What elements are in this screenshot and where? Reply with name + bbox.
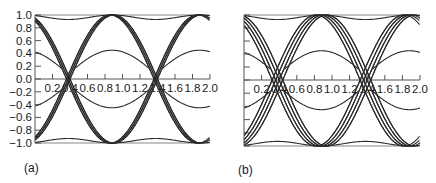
panel-label-b: (b) bbox=[238, 163, 253, 177]
y-tick-label: −1.0 bbox=[9, 137, 32, 149]
y-tick-label: 0.4 bbox=[16, 47, 33, 59]
panel-b: 0.20.40.60.81.01.21.41.61.82.0 bbox=[218, 0, 436, 183]
x-tick-label: 1.8 bbox=[394, 83, 410, 95]
y-tick-label: −0.2 bbox=[9, 86, 32, 98]
eye-trace bbox=[276, 15, 364, 80]
eye-trace bbox=[244, 25, 272, 80]
x-tick-label: 0.6 bbox=[80, 82, 96, 94]
panel-a: 0.20.40.60.81.01.21.41.61.82.01.00.80.60… bbox=[0, 0, 218, 183]
x-tick-label: 1.6 bbox=[377, 83, 393, 95]
y-tick-label: 0.6 bbox=[16, 35, 32, 47]
eye-trace bbox=[35, 16, 68, 20]
eye-trace bbox=[75, 50, 149, 68]
eye-diagram-a: 0.20.40.60.81.01.21.41.61.82.01.00.80.60… bbox=[0, 0, 218, 183]
x-tick-label: 1.6 bbox=[167, 82, 183, 94]
eye-trace bbox=[163, 50, 210, 68]
y-tick-label: 0.8 bbox=[16, 22, 32, 34]
x-tick-label: 2.0 bbox=[412, 83, 428, 95]
eye-trace bbox=[245, 16, 283, 80]
y-tick-label: 0.0 bbox=[16, 73, 32, 85]
eye-trace bbox=[360, 15, 419, 80]
eye-trace bbox=[35, 20, 68, 79]
x-tick-label: 1.0 bbox=[324, 83, 340, 95]
eye-trace bbox=[272, 15, 360, 80]
x-tick-label: 0.8 bbox=[306, 83, 322, 95]
x-tick-label: 0.6 bbox=[289, 83, 305, 95]
y-tick-label: 0.2 bbox=[16, 60, 32, 72]
y-tick-label: −0.4 bbox=[9, 99, 32, 111]
y-tick-label: 1.0 bbox=[16, 9, 32, 21]
x-tick-label: 0.8 bbox=[97, 82, 113, 94]
eye-trace bbox=[35, 21, 66, 79]
y-tick-label: −0.6 bbox=[9, 111, 32, 123]
eye-trace bbox=[154, 15, 209, 79]
eye-diagram-b: 0.20.40.60.81.01.21.41.61.82.0 bbox=[218, 0, 436, 183]
x-tick-label: 1.0 bbox=[115, 82, 131, 94]
eye-trace bbox=[283, 15, 371, 80]
panel-label-a: (a) bbox=[24, 161, 39, 175]
eye-trace bbox=[279, 15, 367, 80]
x-tick-label: 1.8 bbox=[185, 82, 201, 94]
eye-trace bbox=[364, 15, 420, 80]
eye-trace bbox=[35, 139, 68, 143]
eye-trace bbox=[244, 21, 276, 80]
eye-trace bbox=[284, 51, 358, 69]
x-tick-label: 2.0 bbox=[202, 82, 218, 94]
y-tick-label: −0.8 bbox=[9, 124, 32, 136]
